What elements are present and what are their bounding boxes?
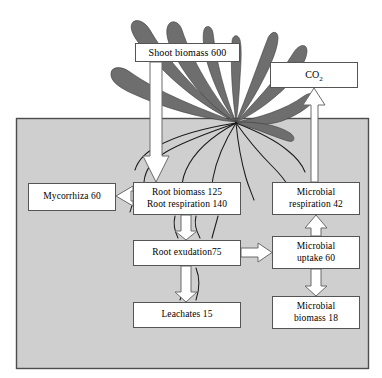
- node-root-biomass[interactable]: Root biomass 125 Root respiration 140: [133, 182, 241, 215]
- node-microbial-uptake-line2: uptake 60: [297, 253, 335, 265]
- node-root-exudation[interactable]: Root exudation75: [133, 240, 241, 266]
- diagram-canvas: Shoot biomass 600 CO2 Mycorrhiza 60 Root…: [0, 0, 382, 378]
- node-root-biomass-line2: Root respiration 140: [147, 199, 227, 211]
- node-microbial-biomass-line1: Microbial: [297, 301, 335, 313]
- node-microbial-uptake-line1: Microbial: [297, 241, 335, 253]
- node-root-exudation-label: Root exudation75: [152, 247, 221, 259]
- node-mycorrhiza[interactable]: Mycorrhiza 60: [28, 183, 116, 211]
- node-microbial-respiration[interactable]: Microbial respiration 42: [272, 182, 360, 215]
- node-microbial-respiration-line1: Microbial: [297, 187, 335, 199]
- node-leachates[interactable]: Leachates 15: [133, 302, 241, 328]
- node-mycorrhiza-label: Mycorrhiza 60: [43, 191, 101, 203]
- node-leachates-label: Leachates 15: [161, 309, 212, 321]
- node-microbial-biomass[interactable]: Microbial biomass 18: [272, 296, 360, 329]
- co2-subscript: 2: [319, 75, 323, 83]
- node-co2[interactable]: CO2: [270, 62, 358, 88]
- node-microbial-uptake[interactable]: Microbial uptake 60: [272, 236, 360, 269]
- node-microbial-biomass-line2: biomass 18: [294, 313, 338, 325]
- node-shoot-biomass-label: Shoot biomass 600: [149, 47, 227, 59]
- node-microbial-respiration-line2: respiration 42: [289, 199, 343, 211]
- node-shoot-biomass[interactable]: Shoot biomass 600: [135, 43, 240, 62]
- node-root-biomass-line1: Root biomass 125: [152, 187, 222, 199]
- node-co2-label: CO2: [305, 69, 323, 81]
